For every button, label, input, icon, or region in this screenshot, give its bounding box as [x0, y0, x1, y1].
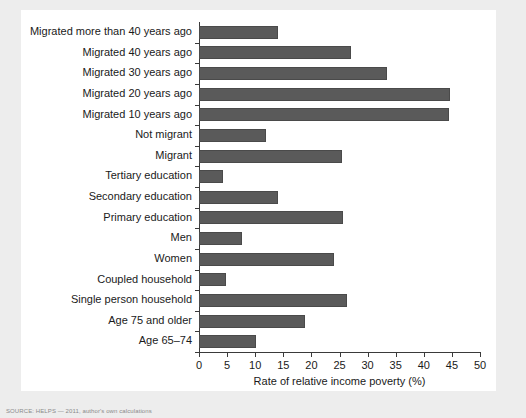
x-axis-tick-label: 0 — [196, 359, 202, 371]
bar-row: Migrated more than 40 years ago — [199, 22, 480, 43]
y-axis-tick-label: Migrated 20 years ago — [83, 85, 192, 102]
y-axis-tick-label: Coupled household — [97, 271, 192, 288]
x-axis-tick-mark — [480, 352, 481, 357]
x-axis-tick-mark — [283, 352, 284, 357]
x-axis-tick-mark — [199, 352, 200, 357]
bar-row: Tertiary education — [199, 166, 480, 187]
bar — [199, 129, 266, 142]
bar-row: Secondary education — [199, 187, 480, 208]
bar — [199, 150, 342, 163]
source-note: SOURCE: HELPS — 2011, author's own calcu… — [6, 408, 152, 414]
bar-row: Migrant — [199, 146, 480, 167]
y-axis-tick-label: Single person household — [71, 291, 192, 308]
x-axis-tick-mark — [396, 352, 397, 357]
x-axis-tick-label: 10 — [249, 359, 261, 371]
bar — [199, 211, 343, 224]
bar-row: Migrated 10 years ago — [199, 105, 480, 126]
y-axis-tick-label: Primary education — [103, 209, 192, 226]
bar — [199, 335, 256, 348]
x-axis-tick-label: 30 — [361, 359, 373, 371]
bar — [199, 88, 450, 101]
bar-row: Age 65–74 — [199, 331, 480, 352]
bar — [199, 67, 387, 80]
bar-row: Migrated 20 years ago — [199, 84, 480, 105]
y-axis-tick-label: Age 75 and older — [108, 312, 192, 329]
y-axis-tick-label: Tertiary education — [105, 167, 192, 184]
bar-row: Migrated 40 years ago — [199, 43, 480, 64]
x-axis-tick-mark — [452, 352, 453, 357]
bar-row: Men — [199, 228, 480, 249]
bar — [199, 294, 347, 307]
chart-figure: Migrated more than 40 years agoMigrated … — [0, 0, 526, 418]
bar-row: Primary education — [199, 208, 480, 229]
bar — [199, 253, 334, 266]
x-axis-tick-label: 15 — [277, 359, 289, 371]
x-axis-tick-label: 35 — [390, 359, 402, 371]
bar-row: Age 75 and older — [199, 311, 480, 332]
bar — [199, 46, 351, 59]
x-axis-tick-label: 25 — [333, 359, 345, 371]
x-axis-tick-label: 20 — [305, 359, 317, 371]
x-axis-tick-mark — [227, 352, 228, 357]
x-axis-tick-label: 40 — [418, 359, 430, 371]
x-axis-tick-label: 45 — [446, 359, 458, 371]
y-axis-tick-label: Migrated 30 years ago — [83, 64, 192, 81]
bar-row: Coupled household — [199, 270, 480, 291]
bar — [199, 273, 226, 286]
y-axis-tick-label: Age 65–74 — [139, 332, 192, 349]
x-axis-tick-label: 50 — [474, 359, 486, 371]
bar-row: Single person household — [199, 290, 480, 311]
x-axis-title: Rate of relative income poverty (%) — [199, 375, 480, 387]
x-axis-tick-mark — [311, 352, 312, 357]
y-axis-tick-label: Migrated more than 40 years ago — [30, 23, 192, 40]
x-axis-tick-mark — [255, 352, 256, 357]
bar-row: Not migrant — [199, 125, 480, 146]
bar — [199, 191, 278, 204]
bar — [199, 108, 449, 121]
x-axis-tick-label: 5 — [224, 359, 230, 371]
bar — [199, 26, 278, 39]
y-axis-tick-label: Not migrant — [135, 126, 192, 143]
y-axis-tick-label: Secondary education — [89, 188, 192, 205]
bar-row: Women — [199, 249, 480, 270]
bar-row: Migrated 30 years ago — [199, 63, 480, 84]
y-axis-tick-label: Migrated 10 years ago — [83, 106, 192, 123]
y-axis-tick-label: Women — [154, 250, 192, 267]
x-axis-tick-mark — [368, 352, 369, 357]
y-axis-tick-label: Migrated 40 years ago — [83, 44, 192, 61]
x-axis-tick-mark — [424, 352, 425, 357]
bar — [199, 232, 242, 245]
bar — [199, 315, 305, 328]
plot-area: Migrated more than 40 years agoMigrated … — [199, 22, 480, 352]
bar — [199, 170, 223, 183]
y-axis-tick-label: Men — [171, 229, 192, 246]
y-axis-tick-label: Migrant — [155, 147, 192, 164]
x-axis-tick-mark — [340, 352, 341, 357]
